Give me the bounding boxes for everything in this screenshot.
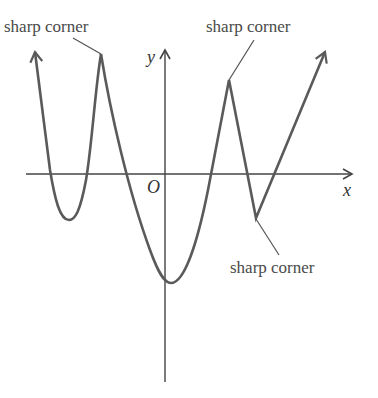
sharp-corner-label-bottom: sharp corner bbox=[230, 258, 315, 277]
sharp-corner-label-top-left: sharp corner bbox=[4, 17, 89, 36]
sharp-corner-label-top-right: sharp corner bbox=[206, 17, 291, 36]
leader-line-bottom-right bbox=[256, 219, 279, 255]
leader-line-top-right bbox=[229, 40, 254, 80]
function-curve bbox=[35, 52, 101, 220]
graph-diagram: sharp corner sharp corner sharp corner y… bbox=[0, 0, 378, 398]
x-axis-label: x bbox=[342, 180, 351, 200]
origin-label: O bbox=[147, 177, 160, 197]
leader-line-top-left bbox=[73, 38, 101, 54]
function-curve-middle bbox=[101, 52, 325, 283]
y-axis-label: y bbox=[145, 47, 155, 67]
